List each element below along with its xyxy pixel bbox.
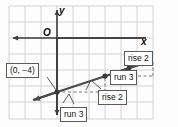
callout-run-upper-label: run 3 xyxy=(110,70,137,85)
callout-rise-upper-label: rise 2 xyxy=(124,51,153,66)
point-3-neg2 xyxy=(102,73,107,78)
leader-point xyxy=(47,77,56,90)
callout-rise-lower-label: rise 2 xyxy=(98,90,127,105)
x-axis-label: x xyxy=(141,37,147,47)
leader-run-lower xyxy=(63,94,74,104)
callout-run-lower-label: run 3 xyxy=(60,107,87,122)
graph-figure: y x O (0, −4) rise 2 run 3 rise 2 run 3 xyxy=(0,0,178,127)
point-0-neg4 xyxy=(54,89,59,94)
callout-point-label: (0, −4) xyxy=(6,63,39,78)
origin-label: O xyxy=(43,28,51,38)
y-axis-label: y xyxy=(59,6,65,16)
